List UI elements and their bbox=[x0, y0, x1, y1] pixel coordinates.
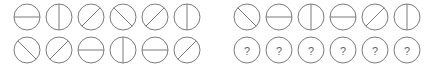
answer-option-2[interactable]: ? bbox=[263, 33, 295, 66]
analogy-puzzle: ?????? bbox=[0, 0, 428, 70]
matrix-r1-6 bbox=[171, 0, 203, 33]
option-prompt-2 bbox=[263, 0, 295, 33]
matrix-r2-1 bbox=[11, 33, 43, 66]
options-panel: ?????? bbox=[220, 0, 428, 70]
answer-option-3[interactable]: ? bbox=[295, 33, 327, 66]
divider-line-diagonal-forward-icon bbox=[178, 40, 196, 58]
matrix-r1-1 bbox=[11, 0, 43, 33]
answer-option-1[interactable]: ? bbox=[231, 33, 263, 66]
divider-line-diagonal-back-icon bbox=[18, 40, 36, 58]
matrix-r2-2 bbox=[43, 33, 75, 66]
divider-line-diagonal-forward-icon bbox=[82, 7, 100, 25]
matrix-r2-4 bbox=[107, 33, 139, 66]
options-answer-row: ?????? bbox=[220, 33, 428, 66]
question-mark-label: ? bbox=[404, 44, 410, 56]
divider-line-diagonal-forward-icon bbox=[366, 7, 384, 25]
matrix-panel bbox=[0, 0, 208, 70]
option-prompt-3 bbox=[295, 0, 327, 33]
divider-line-diagonal-back-icon bbox=[114, 7, 132, 25]
panel-divider-gap bbox=[208, 0, 220, 70]
option-prompt-1 bbox=[231, 0, 263, 33]
answer-option-4[interactable]: ? bbox=[327, 33, 359, 66]
matrix-r2-6 bbox=[171, 33, 203, 66]
divider-line-diagonal-back-icon bbox=[238, 7, 256, 25]
option-prompt-5 bbox=[359, 0, 391, 33]
answer-option-5[interactable]: ? bbox=[359, 33, 391, 66]
divider-line-diagonal-forward-icon bbox=[146, 7, 164, 25]
divider-line-diagonal-forward-icon bbox=[50, 40, 68, 58]
matrix-r1-2 bbox=[43, 0, 75, 33]
question-mark-label: ? bbox=[276, 44, 282, 56]
question-mark-label: ? bbox=[372, 44, 378, 56]
matrix-row-2 bbox=[0, 33, 208, 66]
matrix-row-1 bbox=[0, 0, 208, 33]
matrix-r2-3 bbox=[75, 33, 107, 66]
matrix-r1-3 bbox=[75, 0, 107, 33]
answer-option-6[interactable]: ? bbox=[391, 33, 423, 66]
matrix-r2-5 bbox=[139, 33, 171, 66]
question-mark-label: ? bbox=[340, 44, 346, 56]
question-mark-label: ? bbox=[244, 44, 250, 56]
question-mark-label: ? bbox=[308, 44, 314, 56]
matrix-r1-4 bbox=[107, 0, 139, 33]
option-prompt-4 bbox=[327, 0, 359, 33]
options-prompt-row bbox=[220, 0, 428, 33]
matrix-r1-5 bbox=[139, 0, 171, 33]
option-prompt-6 bbox=[391, 0, 423, 33]
